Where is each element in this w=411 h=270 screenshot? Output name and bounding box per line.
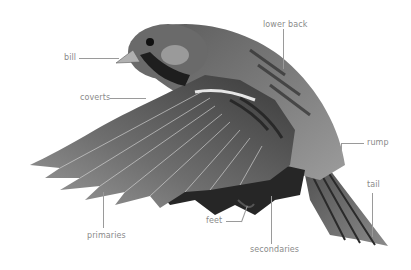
primaries-leader-line bbox=[103, 192, 104, 228]
rump-leader-line-v bbox=[341, 143, 342, 156]
bill-leader-line bbox=[79, 58, 119, 59]
label-primaries: primaries bbox=[87, 231, 126, 241]
bird-anatomy-figure: bill lower back coverts rump tail primar… bbox=[0, 0, 411, 270]
label-rump: rump bbox=[367, 138, 389, 148]
rump-leader-line-h bbox=[341, 143, 364, 144]
coverts-leader-line bbox=[110, 98, 146, 99]
label-secondaries: secondaries bbox=[250, 245, 299, 255]
label-coverts: coverts bbox=[80, 93, 110, 103]
eye-icon bbox=[146, 38, 154, 46]
secondaries-leader-line bbox=[271, 196, 272, 244]
label-feet: feet bbox=[206, 216, 222, 226]
tail-leader-line bbox=[372, 193, 373, 237]
label-bill: bill bbox=[64, 53, 76, 63]
label-lower-back: lower back bbox=[263, 20, 307, 30]
sparrow-illustration bbox=[0, 0, 411, 270]
label-tail: tail bbox=[367, 180, 380, 190]
feet-leader-line-h bbox=[226, 221, 242, 222]
lower-back-leader-line bbox=[283, 29, 284, 69]
